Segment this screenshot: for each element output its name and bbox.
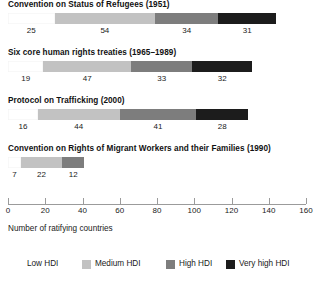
bar-track bbox=[8, 61, 252, 72]
x-axis-tick bbox=[194, 198, 195, 204]
bar-segment-value: 22 bbox=[21, 170, 62, 179]
bar-segment-veryhigh bbox=[196, 109, 248, 120]
bar-segment-low bbox=[8, 13, 55, 24]
bar-segment-value: 34 bbox=[155, 26, 218, 35]
chart-legend: Low HDIMedium HDIHigh HDIVery high HDI bbox=[0, 258, 329, 272]
legend-item-veryhigh[interactable]: Very high HDI bbox=[226, 258, 290, 270]
x-axis-tick bbox=[83, 198, 84, 204]
bar-segment-value: 25 bbox=[8, 26, 55, 35]
bar-segment-high bbox=[131, 61, 192, 72]
x-axis-tick-label: 120 bbox=[217, 206, 247, 215]
x-axis-tick-label: 20 bbox=[30, 206, 60, 215]
bar-segment-value: 44 bbox=[38, 122, 120, 131]
bar-segment-value: 28 bbox=[196, 122, 248, 131]
bar-segment-medium bbox=[38, 109, 120, 120]
stacked-bar-chart: Convention on Status of Refugees (1951)2… bbox=[0, 0, 329, 287]
bar-group-title: Convention on Status of Refugees (1951) bbox=[8, 0, 170, 9]
bar-segment-veryhigh bbox=[218, 13, 276, 24]
legend-item-label: Very high HDI bbox=[239, 258, 290, 270]
x-axis-tick bbox=[232, 198, 233, 204]
bar-segment-medium bbox=[21, 157, 62, 168]
bar-segment-value: 33 bbox=[131, 74, 192, 83]
x-axis-label: Number of ratifying countries bbox=[8, 224, 113, 233]
legend-swatch-icon bbox=[14, 260, 23, 269]
bar-track bbox=[8, 13, 276, 24]
bar-segment-high bbox=[155, 13, 218, 24]
bar-group-title: Convention on Rights of Migrant Workers … bbox=[8, 144, 271, 153]
x-axis-tick bbox=[306, 198, 307, 204]
legend-item-medium[interactable]: Medium HDI bbox=[82, 258, 141, 270]
bar-segment-value: 41 bbox=[120, 122, 196, 131]
x-axis-tick-label: 60 bbox=[105, 206, 135, 215]
bar-segment-value: 32 bbox=[192, 74, 252, 83]
legend-item-high[interactable]: High HDI bbox=[166, 258, 212, 270]
legend-item-label: Low HDI bbox=[27, 258, 58, 270]
x-axis-tick bbox=[157, 198, 158, 204]
bar-segment-value: 7 bbox=[8, 170, 21, 179]
bar-segment-value: 47 bbox=[43, 74, 131, 83]
bar-segment-value: 19 bbox=[8, 74, 43, 83]
x-axis-tick-label: 40 bbox=[68, 206, 98, 215]
legend-item-low[interactable]: Low HDI bbox=[14, 258, 58, 270]
x-axis-tick-label: 100 bbox=[179, 206, 209, 215]
x-axis-tick-label: 0 bbox=[0, 206, 23, 215]
legend-swatch-icon bbox=[226, 260, 235, 269]
bar-segment-low bbox=[8, 109, 38, 120]
bar-segment-value: 54 bbox=[55, 26, 156, 35]
bar-segment-value: 12 bbox=[62, 170, 84, 179]
bar-track bbox=[8, 109, 248, 120]
bar-segment-low bbox=[8, 61, 43, 72]
x-axis-line bbox=[8, 204, 306, 205]
x-axis-tick-label: 80 bbox=[142, 206, 172, 215]
bar-segment-high bbox=[62, 157, 84, 168]
bar-segment-low bbox=[8, 157, 21, 168]
bar-segment-medium bbox=[55, 13, 156, 24]
x-axis-tick bbox=[45, 198, 46, 204]
legend-item-label: Medium HDI bbox=[95, 258, 141, 270]
bar-group-title: Protocol on Trafficking (2000) bbox=[8, 96, 125, 105]
bar-segment-value: 16 bbox=[8, 122, 38, 131]
x-axis-tick bbox=[8, 198, 9, 204]
x-axis-tick-label: 160 bbox=[291, 206, 321, 215]
x-axis-tick bbox=[269, 198, 270, 204]
x-axis: 020406080100120140160 bbox=[0, 198, 329, 220]
x-axis-tick bbox=[120, 198, 121, 204]
x-axis-tick-label: 140 bbox=[254, 206, 284, 215]
legend-item-label: High HDI bbox=[179, 258, 212, 270]
legend-swatch-icon bbox=[82, 260, 91, 269]
legend-swatch-icon bbox=[166, 260, 175, 269]
bar-segment-high bbox=[120, 109, 196, 120]
bar-group-title: Six core human rights treaties (1965–198… bbox=[8, 48, 176, 57]
bar-segment-veryhigh bbox=[192, 61, 252, 72]
bar-segment-medium bbox=[43, 61, 131, 72]
bar-track bbox=[8, 157, 84, 168]
bar-segment-value: 31 bbox=[218, 26, 276, 35]
